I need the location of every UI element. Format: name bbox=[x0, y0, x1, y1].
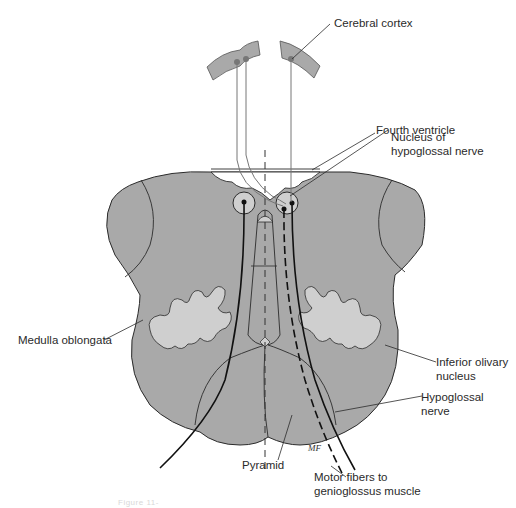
label-motor-line2: genioglossus muscle bbox=[314, 484, 421, 498]
label-nucleus-line2: hypoglossal nerve bbox=[391, 144, 484, 158]
label-nucleus-line1: Nucleus of bbox=[391, 130, 445, 144]
label-olivary-line2: nucleus bbox=[436, 369, 476, 383]
label-motor-line1: Motor fibers to bbox=[314, 470, 388, 484]
medulla-oblongata-section bbox=[107, 150, 425, 470]
label-hypoglossal-line2: nerve bbox=[421, 404, 450, 418]
label-cerebral-cortex: Cerebral cortex bbox=[334, 16, 413, 30]
label-medulla-oblongata: Medulla oblongata bbox=[18, 333, 112, 347]
cerebral-cortex-fragments bbox=[207, 41, 320, 80]
label-hypoglossal-line1: Hypoglossal bbox=[421, 390, 484, 404]
figure-caption: Figure 11- bbox=[118, 498, 159, 507]
label-pyramid: Pyramid bbox=[242, 458, 284, 472]
label-olivary-line1: Inferior olivary bbox=[436, 355, 508, 369]
artist-signature: MF bbox=[307, 443, 321, 453]
medulla-diagram: MF bbox=[0, 0, 516, 508]
